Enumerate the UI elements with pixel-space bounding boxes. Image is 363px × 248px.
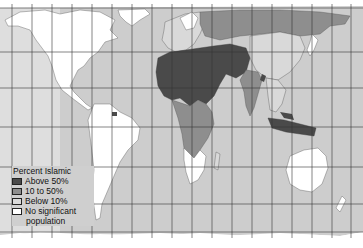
map-legend: Percent Islamic Above 50% 10 to 50% Belo… xyxy=(12,166,94,226)
legend-label: Below 10% xyxy=(25,196,68,206)
legend-label: 10 to 50% xyxy=(25,186,63,196)
swatch-above-50 xyxy=(12,178,22,185)
world-map: Percent Islamic Above 50% 10 to 50% Belo… xyxy=(0,0,363,248)
legend-title: Percent Islamic xyxy=(13,166,94,176)
legend-label: Above 50% xyxy=(25,176,68,186)
legend-item-above-50: Above 50% xyxy=(12,176,94,186)
legend-item-none: No significant xyxy=(12,206,94,216)
swatch-none xyxy=(12,208,22,215)
guyana-region xyxy=(112,112,117,116)
legend-label: No significant xyxy=(25,206,76,216)
swatch-below-10 xyxy=(12,198,22,205)
swatch-10-to-50 xyxy=(12,188,22,195)
legend-item-10-to-50: 10 to 50% xyxy=(12,186,94,196)
legend-item-below-10: Below 10% xyxy=(12,196,94,206)
legend-label-continuation: population xyxy=(12,216,94,226)
